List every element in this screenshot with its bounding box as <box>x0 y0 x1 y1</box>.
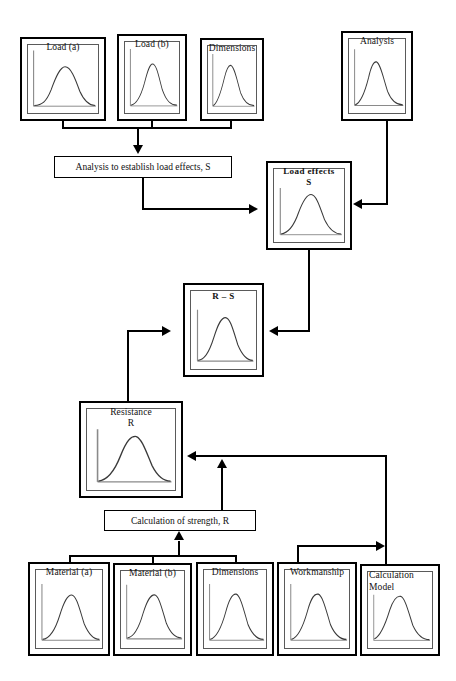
node-calc-strength[interactable]: Calculation of strength, R <box>104 510 256 531</box>
node-load-effects[interactable]: Load effects S <box>266 161 352 250</box>
connector-load-effects-down <box>308 250 310 332</box>
connector-resistance-up <box>127 330 129 403</box>
arrowhead-workmanship-join <box>376 541 385 551</box>
node-workmanship-label: Workmanship <box>279 567 355 578</box>
connector-analysis-to-load-effects <box>362 203 388 205</box>
connector-workmanship-right <box>297 545 377 547</box>
curve-workmanship <box>285 570 349 648</box>
curve-dimensions-top <box>208 46 256 113</box>
node-workmanship[interactable]: Workmanship <box>277 562 357 656</box>
node-calc-model-label-line2: Model <box>362 582 438 593</box>
node-material-a[interactable]: Material (a) <box>28 562 110 656</box>
node-load-effects-label-line2: S <box>268 177 350 188</box>
node-dimensions-top[interactable]: Dimensions <box>200 38 264 121</box>
chart-dimensions-bot <box>203 569 267 649</box>
arrowhead-to-analysis-load-effects <box>133 145 143 154</box>
connector-top-bus <box>62 127 232 129</box>
node-dimensions-bot-label: Dimensions <box>198 567 272 578</box>
connector-resistance-to-rs <box>127 330 163 332</box>
node-analysis[interactable]: Analysis <box>341 31 413 121</box>
connector-bottom-bus-up <box>178 541 180 556</box>
connector-ale-down <box>142 178 144 210</box>
connector-analysis-down <box>386 121 388 205</box>
connector-bottom-bus <box>69 555 237 557</box>
connector-calc-model-to-resistance <box>196 455 387 457</box>
node-dimensions-top-label: Dimensions <box>202 43 262 54</box>
arrowhead-ale-to-load-effects <box>249 204 258 214</box>
node-load-a[interactable]: Load (a) <box>20 37 106 121</box>
node-calc-model-label-line1: Calculation <box>362 570 438 581</box>
chart-dimensions-top <box>207 45 257 114</box>
node-material-b[interactable]: Material (b) <box>113 563 192 656</box>
chart-material-a <box>35 569 103 649</box>
node-load-a-label: Load (a) <box>22 42 104 53</box>
node-calc-model[interactable]: Calculation Model <box>360 564 440 656</box>
node-analysis-load-effects[interactable]: Analysis to establish load effects, S <box>54 156 232 178</box>
connector-calc-model-drop <box>385 555 387 564</box>
curve-analysis <box>349 39 405 113</box>
node-resistance-label-line2: R <box>81 418 181 429</box>
node-material-a-label: Material (a) <box>30 567 108 578</box>
connector-ale-to-load-effects <box>142 208 250 210</box>
chart-workmanship <box>284 569 350 649</box>
curve-material-b <box>121 571 184 648</box>
chart-r-minus-s <box>190 290 257 370</box>
arrowhead-load-effects-to-rs <box>269 326 278 336</box>
curve-r-minus-s <box>191 291 256 369</box>
node-load-b-label: Load (b) <box>119 39 185 50</box>
arrowhead-bottom-bus-to-calc-strength <box>174 531 184 540</box>
arrowhead-calc-strength-to-resistance <box>217 459 227 468</box>
diagram-canvas: Load (a) Load (b) Dimensions <box>0 0 456 681</box>
node-dimensions-bot[interactable]: Dimensions <box>196 562 274 656</box>
chart-analysis <box>348 38 406 114</box>
node-analysis-load-effects-label: Analysis to establish load effects, S <box>76 162 211 172</box>
curve-dimensions-bot <box>204 570 266 648</box>
node-material-b-label: Material (b) <box>115 568 190 579</box>
arrowhead-resistance-to-rs <box>162 326 171 336</box>
node-r-minus-s-label: R – S <box>185 291 262 302</box>
curve-load-b <box>125 42 179 113</box>
chart-load-a <box>27 44 99 114</box>
arrowhead-calc-model-to-resistance <box>187 451 196 461</box>
node-load-effects-label-line1: Load effects <box>268 166 350 177</box>
curve-load-a <box>28 45 98 113</box>
node-resistance-label-line1: Resistance <box>81 407 181 418</box>
arrowhead-analysis-to-load-effects <box>353 199 362 209</box>
curve-material-a <box>36 570 102 648</box>
node-resistance[interactable]: Resistance R <box>79 401 183 498</box>
connector-calc-model-up <box>385 455 387 565</box>
connector-top-bus-down <box>137 127 139 147</box>
node-r-minus-s[interactable]: R – S <box>183 283 264 377</box>
chart-load-b <box>124 41 180 114</box>
node-calc-strength-label: Calculation of strength, R <box>131 516 229 526</box>
node-analysis-label: Analysis <box>343 36 411 47</box>
chart-material-b <box>120 570 185 649</box>
connector-load-effects-to-rs <box>278 330 310 332</box>
node-load-b[interactable]: Load (b) <box>117 34 187 121</box>
connector-calc-strength-up <box>221 468 223 511</box>
